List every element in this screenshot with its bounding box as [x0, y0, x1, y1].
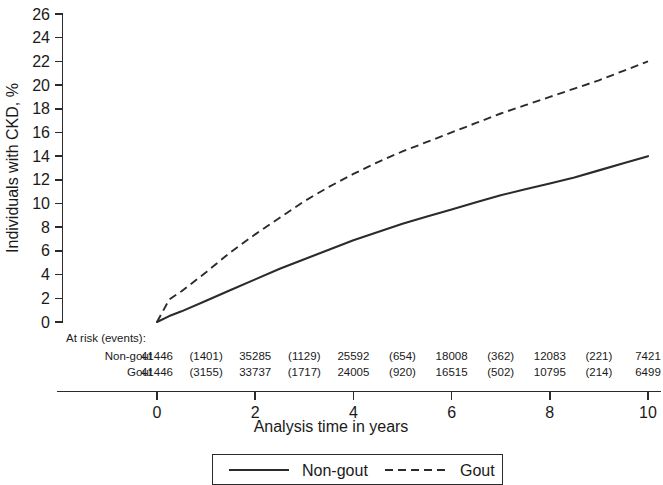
at-risk-value: 41446 — [141, 350, 173, 362]
chart-svg: 02468101214161820222426 0246810 Analysis… — [0, 0, 663, 485]
at-risk-value: 10795 — [534, 366, 566, 378]
series-line-non-gout — [157, 156, 648, 322]
legend-label-non-gout: Non-gout — [302, 462, 368, 479]
series-line-gout — [157, 61, 648, 322]
at-risk-value: 35285 — [239, 350, 271, 362]
x-axis-ticks — [157, 392, 648, 401]
y-tick-label-2: 2 — [41, 290, 50, 307]
x-tick-label-6: 6 — [447, 404, 456, 421]
y-tick-label-4: 4 — [41, 266, 50, 283]
y-tick-label-18: 18 — [32, 100, 50, 117]
at-risk-value: 16515 — [436, 366, 468, 378]
y-tick-label-14: 14 — [32, 148, 50, 165]
legend-label-gout: Gout — [460, 462, 495, 479]
y-tick-label-0: 0 — [41, 314, 50, 331]
y-axis-ticks — [55, 14, 63, 322]
at-risk-value: 6499 — [635, 366, 661, 378]
y-tick-label-10: 10 — [32, 195, 50, 212]
y-axis-tick-labels: 02468101214161820222426 — [32, 6, 50, 331]
at-risk-events-value: (920) — [389, 366, 416, 378]
x-tick-label-8: 8 — [545, 404, 554, 421]
at-risk-events-value: (1129) — [288, 350, 321, 362]
at-risk-events-value: (654) — [389, 350, 416, 362]
y-tick-label-22: 22 — [32, 53, 50, 70]
at-risk-events-value: (3155) — [189, 366, 222, 378]
y-tick-label-20: 20 — [32, 77, 50, 94]
y-tick-label-8: 8 — [41, 219, 50, 236]
kaplan-meier-chart: 02468101214161820222426 0246810 Analysis… — [0, 0, 663, 485]
y-tick-label-12: 12 — [32, 171, 50, 188]
at-risk-events-value: (502) — [487, 366, 514, 378]
y-tick-label-24: 24 — [32, 29, 50, 46]
at-risk-events-value: (214) — [585, 366, 612, 378]
at-risk-events-value: (1717) — [288, 366, 321, 378]
at-risk-events-value: (362) — [487, 350, 514, 362]
x-tick-label-0: 0 — [153, 404, 162, 421]
at-risk-value: 18008 — [436, 350, 468, 362]
y-tick-label-6: 6 — [41, 242, 50, 259]
at-risk-value: 41446 — [141, 366, 173, 378]
at-risk-value: 25592 — [337, 350, 369, 362]
at-risk-heading: At risk (events): — [66, 332, 146, 344]
at-risk-events-value: (1401) — [189, 350, 222, 362]
y-tick-label-26: 26 — [32, 6, 50, 23]
y-axis-title: Individuals with CKD, % — [4, 83, 21, 253]
at-risk-table: At risk (events): Non-gout41446352852559… — [66, 332, 661, 378]
at-risk-value: 33737 — [239, 366, 271, 378]
at-risk-value: 24005 — [337, 366, 369, 378]
at-risk-value: 12083 — [534, 350, 566, 362]
y-tick-label-16: 16 — [32, 124, 50, 141]
chart-legend: Non-gout Gout — [213, 455, 503, 485]
x-tick-label-10: 10 — [639, 404, 657, 421]
x-axis-title: Analysis time in years — [254, 418, 409, 435]
at-risk-value: 7421 — [635, 350, 661, 362]
at-risk-events-value: (221) — [585, 350, 612, 362]
